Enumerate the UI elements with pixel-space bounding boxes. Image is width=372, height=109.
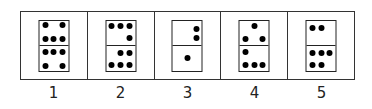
domino-cell-3[interactable]: [155, 12, 222, 79]
pip-dot-icon: [109, 23, 115, 29]
domino-half-bottom: [39, 46, 68, 71]
domino-label: 3: [154, 84, 221, 102]
pip-dot-icon: [193, 35, 199, 41]
pip-dot-icon: [42, 49, 48, 55]
pip-dot-icon: [243, 62, 249, 68]
pip-dot-icon: [251, 23, 257, 29]
domino-half-top: [106, 21, 135, 47]
pip-dot-icon: [318, 25, 324, 31]
pip-dot-icon: [318, 62, 324, 68]
pip-dot-icon: [309, 25, 315, 31]
domino-label: 2: [87, 84, 154, 102]
pip-dot-icon: [60, 36, 66, 42]
pip-dot-icon: [260, 62, 266, 68]
domino-half-top: [39, 21, 68, 47]
domino-label: 1: [20, 84, 87, 102]
pip-dot-icon: [126, 35, 132, 41]
pip-dot-icon: [42, 22, 48, 28]
pip-dot-icon: [243, 49, 249, 55]
domino-cell-1[interactable]: [21, 12, 88, 79]
domino-half-bottom: [307, 46, 336, 71]
pip-dot-icon: [126, 50, 132, 56]
domino-labels: 12345: [20, 84, 355, 102]
domino-tile: [306, 20, 337, 72]
domino-half-top: [240, 21, 269, 47]
domino-label: 4: [221, 84, 288, 102]
pip-dot-icon: [118, 62, 124, 68]
domino-cell-4[interactable]: [221, 12, 288, 79]
pip-dot-icon: [118, 23, 124, 29]
pip-dot-icon: [126, 23, 132, 29]
pip-dot-icon: [118, 50, 124, 56]
pip-dot-icon: [318, 50, 324, 56]
domino-tile: [172, 20, 203, 72]
pip-dot-icon: [42, 63, 48, 69]
domino-tile: [239, 20, 270, 72]
pip-dot-icon: [309, 50, 315, 56]
domino-strip: [20, 11, 355, 80]
domino-half-bottom: [173, 46, 202, 71]
domino-cell-5[interactable]: [288, 12, 354, 79]
pip-dot-icon: [109, 62, 115, 68]
pip-dot-icon: [60, 63, 66, 69]
pip-dot-icon: [309, 62, 315, 68]
domino-half-bottom: [240, 46, 269, 71]
pip-dot-icon: [126, 62, 132, 68]
pip-dot-icon: [184, 55, 190, 61]
pip-dot-icon: [193, 26, 199, 32]
pip-dot-icon: [243, 36, 249, 42]
domino-cell-2[interactable]: [88, 12, 155, 79]
pip-dot-icon: [251, 62, 257, 68]
domino-half-top: [173, 21, 202, 47]
pip-dot-icon: [60, 49, 66, 55]
pip-dot-icon: [42, 36, 48, 42]
pip-dot-icon: [327, 50, 333, 56]
domino-tile: [105, 20, 136, 72]
pip-dot-icon: [51, 49, 57, 55]
domino-tile: [38, 20, 69, 72]
pip-dot-icon: [60, 22, 66, 28]
pip-dot-icon: [260, 36, 266, 42]
pip-dot-icon: [51, 36, 57, 42]
domino-half-top: [307, 21, 336, 47]
domino-half-bottom: [106, 46, 135, 71]
domino-label: 5: [288, 84, 355, 102]
